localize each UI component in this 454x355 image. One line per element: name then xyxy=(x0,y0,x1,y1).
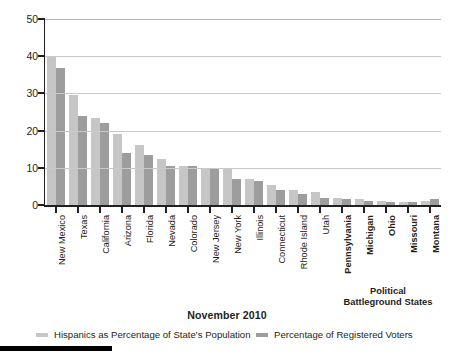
y-axis-tick-label: 30 xyxy=(27,88,38,99)
x-axis-label-colorado: Colorado xyxy=(190,215,199,252)
x-axis-tick-mark xyxy=(187,206,189,213)
bar-voters xyxy=(298,194,307,205)
bar-group xyxy=(201,19,219,205)
x-axis-label-pennsylvania: Pennsylvania xyxy=(344,215,353,274)
gridline xyxy=(45,93,441,94)
bar-voters xyxy=(188,166,197,205)
x-axis-label-montana: Montana xyxy=(432,215,441,253)
x-axis-tick-mark xyxy=(297,206,299,213)
bar-population xyxy=(333,198,342,205)
y-axis-tick-mark xyxy=(38,18,45,20)
x-axis-label-florida: Florida xyxy=(146,215,155,243)
x-axis-label-utah: Utah xyxy=(322,215,331,234)
bar-voters xyxy=(144,155,153,205)
bar-voters xyxy=(276,190,285,205)
y-axis-tick-labels: 01020304050 xyxy=(12,14,38,210)
bar-group xyxy=(289,19,307,205)
bar-group xyxy=(399,19,417,205)
bar-voters xyxy=(254,181,263,205)
x-axis-line xyxy=(44,205,441,207)
bar-population xyxy=(179,166,188,205)
legend-item-population[interactable]: Hispanics as Percentage of State's Popul… xyxy=(36,329,251,340)
x-axis-tick-mark xyxy=(231,206,233,213)
legend-label: Percentage of Registered Voters xyxy=(274,329,413,340)
bar-voters xyxy=(232,179,241,205)
x-axis-tick-mark xyxy=(275,206,277,213)
bar-group xyxy=(47,19,65,205)
bar-population xyxy=(223,168,232,205)
bar-group xyxy=(377,19,395,205)
plot-area xyxy=(44,19,440,205)
bar-group xyxy=(223,19,241,205)
bar-voters xyxy=(166,166,175,205)
chart-legend: Hispanics as Percentage of State's Popul… xyxy=(0,329,454,343)
x-axis-tick-mark xyxy=(253,206,255,213)
bottom-rule-decoration xyxy=(0,346,112,351)
bar-population xyxy=(157,159,166,206)
x-axis-tick-mark xyxy=(99,206,101,213)
bar-group xyxy=(135,19,153,205)
bar-group xyxy=(355,19,373,205)
x-axis-label-illinois: Illinois xyxy=(256,215,265,241)
bar-groups xyxy=(45,19,441,205)
y-axis-tick-mark xyxy=(38,55,45,57)
x-axis-label-ohio: Ohio xyxy=(388,215,397,236)
x-axis-label-nevada: Nevada xyxy=(168,215,177,247)
x-axis-tick-mark xyxy=(407,206,409,213)
y-axis-tick-label: 10 xyxy=(27,163,38,174)
x-axis-tick-mark xyxy=(363,206,365,213)
chart-title: November 2010 xyxy=(0,309,454,321)
bar-group xyxy=(69,19,87,205)
x-axis-label-arizona: Arizona xyxy=(124,215,133,246)
legend-item-voters[interactable]: Percentage of Registered Voters xyxy=(256,329,413,340)
y-axis-tick-mark xyxy=(38,130,45,132)
x-axis-label-new-mexico: New Mexico xyxy=(58,215,67,265)
x-axis-tick-mark xyxy=(209,206,211,213)
legend-label: Hispanics as Percentage of State's Popul… xyxy=(54,329,251,340)
x-axis-label-missouri: Missouri xyxy=(410,215,419,253)
bar-voters xyxy=(78,116,87,205)
bar-population xyxy=(289,190,298,205)
y-axis-tick-mark xyxy=(38,167,45,169)
battleground-annotation: Political Battleground States xyxy=(332,285,444,308)
legend-swatch-icon xyxy=(256,333,268,337)
x-axis-tick-mark xyxy=(55,206,57,213)
y-axis-tick-label: 50 xyxy=(27,14,38,25)
x-axis-tick-mark xyxy=(429,206,431,213)
y-axis-tick-label: 40 xyxy=(27,51,38,62)
x-axis-tick-mark xyxy=(385,206,387,213)
bar-population xyxy=(201,168,210,205)
bar-group xyxy=(179,19,197,205)
x-axis-tick-mark xyxy=(165,206,167,213)
bar-group xyxy=(267,19,285,205)
bar-voters xyxy=(56,68,65,205)
bar-group xyxy=(157,19,175,205)
bar-voters xyxy=(210,168,219,205)
bar-population xyxy=(267,185,276,205)
bar-group xyxy=(421,19,439,205)
x-axis-tick-mark xyxy=(77,206,79,213)
annotation-line-1: Political xyxy=(332,285,444,296)
gridline xyxy=(45,19,441,20)
y-axis-tick-mark xyxy=(38,204,45,206)
x-axis-label-new-york: New York xyxy=(234,215,243,254)
bar-voters xyxy=(122,153,131,205)
x-axis-label-texas: Texas xyxy=(80,215,89,239)
annotation-line-2: Battleground States xyxy=(332,296,444,307)
legend-swatch-icon xyxy=(36,333,48,337)
bar-population xyxy=(135,145,144,205)
x-axis-tick-mark xyxy=(143,206,145,213)
bar-voters xyxy=(100,123,109,205)
x-axis-tick-mark xyxy=(341,206,343,213)
bar-group xyxy=(311,19,329,205)
bar-group xyxy=(245,19,263,205)
y-axis-tick-mark xyxy=(38,92,45,94)
gridline xyxy=(45,56,441,57)
x-axis-label-connecticut: Connecticut xyxy=(278,215,287,264)
x-axis-label-california: California xyxy=(102,215,111,254)
gridline xyxy=(45,131,441,132)
bar-voters xyxy=(320,198,329,205)
bar-group xyxy=(333,19,351,205)
bar-population xyxy=(113,134,122,205)
chart-figure: 01020304050 New MexicoTexasCaliforniaAri… xyxy=(0,0,454,355)
